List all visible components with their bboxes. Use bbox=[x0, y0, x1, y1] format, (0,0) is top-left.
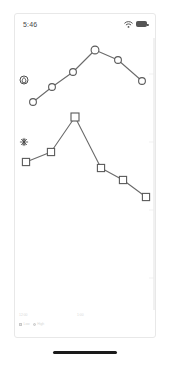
high-series-line bbox=[33, 50, 142, 102]
high-series-point[interactable] bbox=[70, 69, 77, 76]
legend-label: Low bbox=[24, 323, 30, 326]
low-series-point[interactable] bbox=[71, 113, 79, 121]
chart-legend: Low High bbox=[19, 323, 44, 326]
x-axis-tick-label: 12:00 bbox=[19, 314, 28, 317]
temperature-line-chart bbox=[15, 34, 156, 314]
low-series-point[interactable] bbox=[142, 193, 149, 200]
snowflake-icon bbox=[20, 138, 27, 145]
status-bar: 5:46 bbox=[15, 14, 155, 34]
high-series-point[interactable] bbox=[49, 84, 56, 91]
x-axis-tick-label: 1:00 bbox=[77, 314, 84, 317]
status-bar-time: 5:46 bbox=[23, 21, 37, 28]
status-bar-indicators bbox=[124, 21, 147, 28]
square-marker-icon bbox=[19, 323, 22, 326]
chart-container bbox=[15, 34, 156, 314]
app-screen: 5:46 bbox=[14, 13, 156, 338]
flame-droplet-circle-icon bbox=[20, 76, 28, 84]
legend-label: High bbox=[37, 323, 44, 326]
home-indicator[interactable] bbox=[53, 351, 117, 354]
high-series-point[interactable] bbox=[30, 99, 37, 106]
low-series-point[interactable] bbox=[22, 158, 29, 165]
low-series-point[interactable] bbox=[47, 148, 54, 155]
circle-marker-icon bbox=[33, 323, 36, 326]
high-series-point[interactable] bbox=[115, 57, 122, 64]
high-series-point[interactable] bbox=[139, 78, 146, 85]
wifi-icon bbox=[124, 21, 133, 28]
legend-item-low[interactable]: Low bbox=[19, 323, 30, 326]
legend-item-high[interactable]: High bbox=[33, 323, 44, 326]
phone-frame: 5:46 bbox=[0, 0, 169, 371]
low-series-point[interactable] bbox=[97, 164, 104, 171]
chart-footer: 12:00 1:00 Low High bbox=[15, 314, 156, 338]
high-series-point[interactable] bbox=[91, 46, 99, 54]
low-series-point[interactable] bbox=[119, 176, 126, 183]
x-axis-labels: 12:00 1:00 bbox=[15, 314, 156, 323]
battery-icon bbox=[136, 21, 147, 27]
low-series-line bbox=[26, 117, 146, 197]
